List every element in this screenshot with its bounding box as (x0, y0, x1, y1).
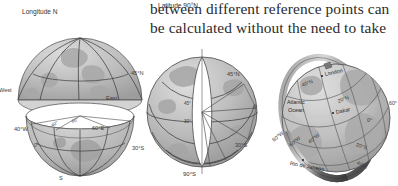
label-lon-40w: 40°W (14, 127, 28, 133)
figure-longitude-hemisphere: Longitude N West East 45°N 0° 40° 60° 40… (0, 4, 160, 186)
label-zero-b: 0° (34, 144, 38, 149)
label-latitude-90s: 90°S (183, 171, 196, 177)
label-latitude-90n: Latitude 90°N (158, 3, 198, 10)
label-west: West (0, 88, 12, 94)
label-mid-angle-30: 30° (184, 120, 191, 125)
label-mid-lat-30s: 30°S (235, 143, 247, 149)
lower-bowl (26, 103, 134, 176)
label-lon-60e: 60°E (92, 126, 104, 132)
label-r-0: 0° (367, 118, 372, 123)
label-ocean: Ocean (288, 108, 304, 113)
label-longitude-n: Longitude N (22, 9, 58, 16)
label-r-60: 60° (389, 101, 397, 106)
label-mid-angle-45: 45° (184, 102, 191, 107)
label-mid-zero: 0° (253, 106, 257, 111)
label-atlantic: Atlantic (287, 100, 305, 105)
label-east: East (106, 96, 117, 102)
label-south: S (59, 176, 63, 182)
label-mid-lat-45n: 45°N (227, 72, 240, 78)
paragraph-line-2: be calculated without the need to take (150, 18, 398, 37)
figure-atlantic-globe: London Dakar Rio de Janeiro Atlantic Oce… (262, 55, 395, 186)
figure-latitude-globe: Latitude 90°N 45°N 45° 30° 0° 30°S 90°S (140, 40, 265, 186)
